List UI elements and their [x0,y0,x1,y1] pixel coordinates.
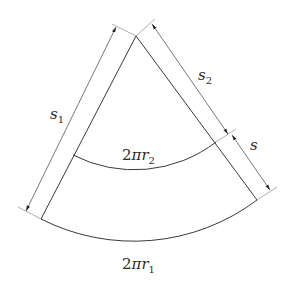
label-outer-arc: 2πr1 [122,255,155,275]
left-radius-line [41,36,136,219]
bottom-left-extension [18,207,41,219]
bottom-right-extension [257,187,277,200]
outer-arc [41,200,257,241]
apex-extension-left [112,24,136,36]
apex-extension-right [136,19,155,36]
sector-shape [41,36,257,241]
s1-dimension-line [26,27,116,211]
label-s: s [250,136,258,154]
s2-dimension-line [152,24,228,134]
annular-sector-diagram: s1 s2 s 2πr2 2πr1 [0,0,294,287]
right-radius-line [136,36,257,200]
label-s2: s2 [198,66,212,86]
label-s1: s1 [50,105,64,125]
label-inner-arc: 2πr2 [122,146,155,166]
